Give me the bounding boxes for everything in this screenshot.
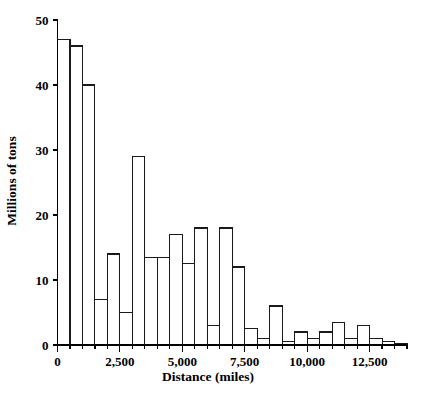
histogram-bar <box>345 339 357 346</box>
y-tick-label: 40 <box>36 78 49 93</box>
histogram-bar <box>307 339 319 346</box>
histogram-bar <box>295 332 307 345</box>
y-axis-title: Millions of tons <box>4 136 19 225</box>
histogram-bar <box>170 235 182 346</box>
x-tick-label: 7,500 <box>230 354 259 369</box>
histogram-chart: 01020304050 02,5005,0007,50010,00012,500… <box>0 0 422 393</box>
y-tick-label: 30 <box>36 143 49 158</box>
histogram-bar <box>232 267 244 345</box>
histogram-bar <box>145 257 157 345</box>
histogram-bar <box>332 322 344 345</box>
histogram-bar <box>95 300 107 346</box>
histogram-bar <box>58 40 70 346</box>
histogram-bar <box>370 339 382 346</box>
histogram-bar <box>320 332 332 345</box>
x-axis-title: Distance (miles) <box>162 369 254 384</box>
y-tick-label: 20 <box>36 208 49 223</box>
histogram-bar <box>220 228 232 345</box>
x-tick-label: 5,000 <box>168 354 197 369</box>
x-tick-label: 0 <box>54 354 61 369</box>
histogram-bar <box>207 326 219 346</box>
histogram-bar <box>270 306 282 345</box>
histogram-bar <box>195 228 207 345</box>
histogram-bar <box>157 257 169 345</box>
histogram-bar <box>107 254 119 345</box>
histogram-bar <box>120 313 132 346</box>
x-tick-label: 2,500 <box>105 354 134 369</box>
y-tick-label: 50 <box>36 13 49 28</box>
histogram-bar <box>257 339 269 346</box>
histogram-bar <box>245 329 257 345</box>
y-tick-label: 10 <box>36 273 49 288</box>
y-tick-label: 0 <box>42 338 49 353</box>
x-tick-label: 12,500 <box>352 354 388 369</box>
histogram-bar <box>182 264 194 345</box>
histogram-bar <box>132 157 144 346</box>
histogram-bar <box>357 326 369 346</box>
histogram-plot-area: 01020304050 02,5005,0007,50010,00012,500… <box>0 0 422 393</box>
histogram-bar <box>70 46 82 345</box>
x-tick-label: 10,000 <box>289 354 325 369</box>
histogram-bar <box>82 85 94 345</box>
